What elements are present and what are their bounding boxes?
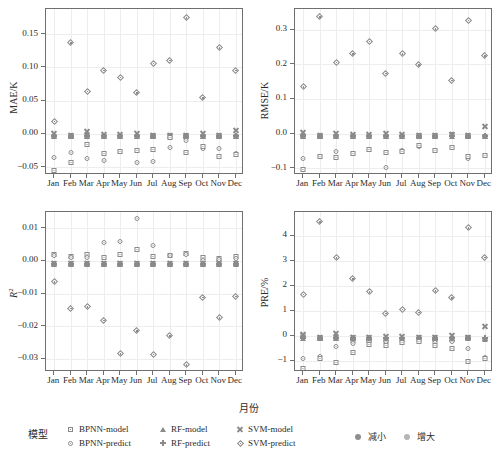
plus-icon [68, 133, 74, 139]
y-tick-label: 2 [249, 280, 287, 289]
y-tick-mark [41, 66, 45, 67]
gridline-horizontal [295, 99, 491, 100]
y-tick-label: 4 [249, 230, 287, 239]
circle-icon [151, 159, 156, 164]
y-tick-mark [41, 293, 45, 294]
plus-icon [160, 438, 166, 448]
plus-icon [383, 133, 389, 139]
data-point [383, 125, 389, 143]
plus-icon [300, 335, 306, 341]
diamond-icon [216, 45, 222, 51]
diamond-icon [317, 219, 323, 225]
gridline-horizontal [46, 261, 242, 262]
diamond-shape [117, 74, 124, 81]
legend-item-rf-model[interactable]: RF-model [160, 424, 208, 434]
y-tick-label: 0.00 [0, 128, 38, 137]
diamond-shape [399, 305, 406, 312]
y-tick-label: 3 [249, 255, 287, 264]
data-point [84, 296, 90, 314]
plus-icon [68, 261, 74, 267]
plus-icon [167, 261, 173, 267]
diamond-shape [133, 327, 140, 334]
legend-label: 增大 [417, 432, 435, 442]
diamond-shape [432, 287, 439, 294]
diamond-icon [449, 77, 455, 83]
plus-icon [317, 335, 323, 341]
data-point [465, 125, 471, 143]
diamond-icon [333, 59, 339, 65]
dot-icon [404, 434, 410, 440]
data-point [317, 8, 323, 24]
legend-direction-increase[interactable]: 增大 [404, 430, 435, 443]
data-point [317, 125, 323, 143]
square-icon [350, 350, 355, 355]
data-point [482, 45, 488, 63]
square-icon [367, 147, 372, 152]
data-point [300, 327, 306, 345]
data-point [167, 325, 173, 343]
gridline-vertical [186, 212, 187, 370]
data-point [333, 327, 339, 345]
square-icon [416, 339, 421, 344]
plot-area-rmse [294, 8, 492, 174]
panel-mae: MAE/K −0.050.000.050.100.15JanFebMarAprM… [0, 0, 249, 205]
legend-direction-decrease[interactable]: 减小 [355, 430, 386, 443]
data-point [465, 217, 471, 235]
y-tick-label: 0.01 [0, 223, 38, 232]
x-axis-caption: 月份 [0, 400, 498, 415]
legend-item-svm-predict[interactable]: SVM-predict [237, 438, 296, 448]
diamond-icon [183, 15, 189, 21]
legend-item-svm-model[interactable]: SVM-model [237, 424, 293, 434]
data-point [333, 51, 339, 69]
diamond-shape [117, 350, 124, 357]
y-tick-mark [290, 260, 294, 261]
y-tick-label: −0.03 [0, 353, 38, 362]
diamond-shape [316, 218, 323, 225]
diamond-shape [67, 305, 74, 312]
plus-icon [101, 133, 107, 139]
gridline-horizontal [46, 67, 242, 68]
y-tick-label: 0.10 [0, 62, 38, 71]
diamond-shape [84, 88, 91, 95]
legend-title: 模型 [28, 426, 48, 441]
plus-icon [432, 133, 438, 139]
data-point [482, 327, 488, 345]
diamond-icon [333, 255, 339, 261]
circle-icon [383, 165, 388, 170]
data-point [416, 134, 421, 152]
data-point [167, 126, 172, 144]
diamond-shape [232, 67, 239, 74]
y-tick-mark [290, 235, 294, 236]
plus-icon [160, 440, 166, 446]
square-icon [400, 149, 405, 154]
diamond-shape [382, 309, 389, 316]
diamond-icon [233, 293, 239, 299]
gridline-vertical [219, 212, 220, 370]
gridline-vertical [71, 212, 72, 370]
diamond-shape [481, 52, 488, 59]
legend-item-rf-predict[interactable]: RF-predict [160, 438, 210, 448]
data-point [300, 76, 306, 94]
data-point [101, 125, 107, 143]
gridline-horizontal [295, 311, 491, 312]
square-icon [118, 149, 123, 154]
data-point [101, 59, 107, 77]
data-point [416, 301, 422, 319]
data-point [300, 125, 306, 143]
data-point [333, 247, 339, 265]
legend-item-bpnn-predict[interactable]: BPNN-predict [68, 438, 131, 448]
plus-icon [134, 261, 140, 267]
dot-icon [355, 434, 361, 440]
data-point [233, 125, 239, 143]
data-point [118, 140, 123, 158]
legend-item-bpnn-model[interactable]: BPNN-model [68, 424, 129, 434]
circle-icon [167, 145, 172, 150]
diamond-icon [68, 305, 74, 311]
square-icon [383, 343, 388, 348]
diamond-shape [448, 77, 455, 84]
plus-icon [333, 335, 339, 341]
x-tick-label: Dec [222, 179, 248, 188]
square-icon [134, 148, 139, 153]
diamond-icon [200, 95, 206, 101]
diamond-icon [383, 70, 389, 76]
